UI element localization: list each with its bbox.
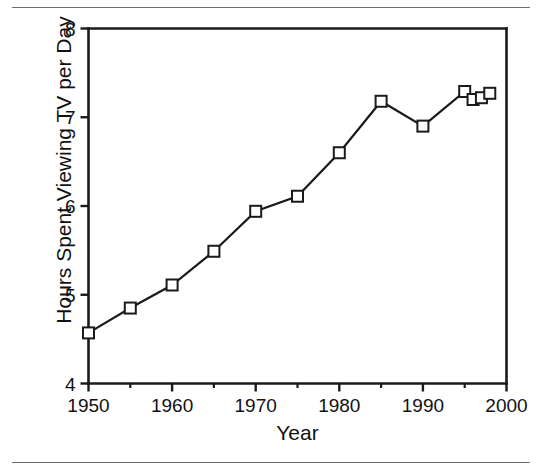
svg-text:2000: 2000: [485, 395, 527, 416]
figure-page: 45678195019601970198019902000 Hours Spen…: [0, 0, 542, 476]
svg-text:1960: 1960: [151, 395, 193, 416]
svg-text:1970: 1970: [235, 395, 277, 416]
svg-text:1950: 1950: [67, 395, 109, 416]
svg-text:4: 4: [65, 374, 76, 395]
x-axis-label: Year: [88, 421, 507, 445]
axis-tick-labels: 45678195019601970198019902000: [65, 19, 528, 416]
svg-text:8: 8: [65, 19, 76, 40]
axis-ticks: [81, 29, 507, 392]
svg-text:5: 5: [65, 285, 76, 306]
axes-frame: [87, 27, 508, 385]
x-axis-label-text: Year: [276, 421, 318, 444]
svg-text:1980: 1980: [318, 395, 360, 416]
data-line: [89, 92, 490, 333]
svg-text:6: 6: [65, 196, 76, 217]
svg-text:7: 7: [65, 107, 76, 128]
chart-svg: 45678195019601970198019902000: [0, 0, 542, 476]
svg-text:1990: 1990: [402, 395, 444, 416]
line-chart-figure: 45678195019601970198019902000 Hours Spen…: [0, 0, 542, 476]
